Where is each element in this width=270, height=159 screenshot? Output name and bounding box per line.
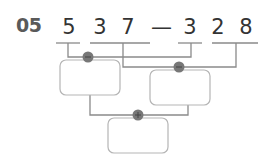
- minus-operator-icon-2: [174, 62, 185, 73]
- answer-box-left[interactable]: [60, 60, 120, 95]
- minus-operator-icon: [83, 52, 94, 63]
- answer-box-right[interactable]: [150, 70, 210, 105]
- answer-box-result[interactable]: [108, 118, 168, 153]
- decomposition-diagram: [0, 0, 270, 159]
- plus-operator-icon: [133, 110, 144, 121]
